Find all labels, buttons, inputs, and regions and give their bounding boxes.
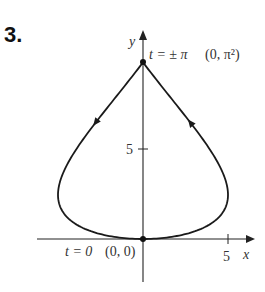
bottom-t-label: t = 0 bbox=[65, 244, 92, 259]
y-axis-label: y bbox=[127, 34, 136, 49]
top-t-label: t = ± π bbox=[149, 47, 189, 62]
x-axis-arrow-icon bbox=[246, 235, 255, 243]
parametric-plot: y x 5 5 t = ± π (0, π²) t = 0 (0, 0) bbox=[0, 0, 265, 292]
bottom-point-label: (0, 0) bbox=[105, 244, 136, 260]
x-tick-label: 5 bbox=[223, 249, 230, 264]
top-point-label: (0, π²) bbox=[205, 47, 240, 63]
x-axis-label: x bbox=[242, 247, 250, 262]
y-tick-label: 5 bbox=[126, 142, 133, 157]
y-axis-arrow-icon bbox=[139, 30, 147, 40]
point-origin bbox=[140, 236, 146, 242]
point-top bbox=[140, 59, 146, 65]
